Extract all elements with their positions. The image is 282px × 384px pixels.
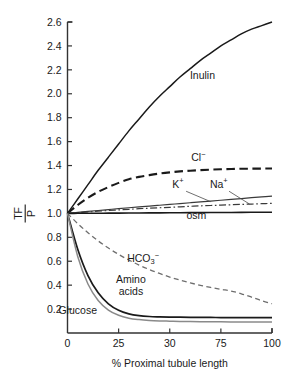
y-axis-title-numerator: TF bbox=[12, 207, 24, 220]
x-tick-label: 25 bbox=[113, 337, 125, 349]
curve-label-bicarbonate: HCO3− bbox=[127, 251, 160, 266]
y-tick-label: 0.6 bbox=[47, 255, 62, 267]
y-axis-title: TFP bbox=[12, 204, 38, 222]
tick-mark-group bbox=[68, 22, 273, 333]
curve-glucose bbox=[68, 213, 273, 322]
y-axis-tick-label-group: 0.20.40.60.81.01.21.41.61.82.02.22.42.6 bbox=[47, 16, 62, 315]
curve-bicarbonate bbox=[68, 213, 273, 303]
axis-lines bbox=[68, 22, 273, 333]
x-tick-label: 30 bbox=[164, 337, 176, 349]
curve-label-inulin: Inulin bbox=[190, 69, 215, 81]
x-tick-label: 100 bbox=[263, 337, 281, 349]
curve-label-amino-acids: Amino bbox=[116, 273, 146, 285]
figure-root: 0.20.40.60.81.01.21.41.61.82.02.22.42.6 … bbox=[0, 0, 282, 384]
curve-chloride bbox=[68, 169, 273, 214]
curve-label-amino-acids-line2: acids bbox=[119, 285, 144, 297]
y-tick-label: 0.8 bbox=[47, 231, 62, 243]
curve-label-potassium: K+ bbox=[172, 176, 184, 189]
y-tick-label: 0.4 bbox=[47, 279, 62, 291]
curve-label-chloride: Cl− bbox=[191, 150, 206, 163]
x-axis-title: % Proximal tubule length bbox=[112, 357, 228, 369]
y-tick-label: 1.8 bbox=[47, 111, 62, 123]
y-tick-label: 1.6 bbox=[47, 135, 62, 147]
y-tick-label: 1.0 bbox=[47, 207, 62, 219]
curve-osmolality bbox=[68, 212, 273, 213]
curve-label-osmolality: osm bbox=[186, 209, 206, 221]
curve-group bbox=[68, 22, 273, 322]
y-tick-label: 2.0 bbox=[47, 87, 62, 99]
leader-line-potassium bbox=[186, 191, 211, 201]
curve-amino-acids bbox=[68, 213, 273, 317]
y-tick-label: 2.6 bbox=[47, 16, 62, 28]
curve-label-sodium: Na+ bbox=[210, 176, 228, 189]
tf-p-proximal-tubule-chart: 0.20.40.60.81.01.21.41.61.82.02.22.42.6 … bbox=[0, 0, 282, 384]
x-axis-tick-label-group: 0253075100 bbox=[65, 337, 281, 349]
curve-label-group: InulinCl−K+Na+osmHCO3−AminoacidsGlucose bbox=[58, 69, 228, 316]
y-axis-title-denominator: P bbox=[25, 210, 37, 217]
y-tick-label: 2.4 bbox=[47, 40, 62, 52]
x-tick-label: 75 bbox=[215, 337, 227, 349]
y-tick-label: 1.4 bbox=[47, 159, 62, 171]
curve-inulin bbox=[68, 22, 273, 213]
curve-label-glucose: Glucose bbox=[58, 304, 97, 316]
y-tick-label: 1.2 bbox=[47, 183, 62, 195]
x-tick-label: 0 bbox=[65, 337, 71, 349]
y-tick-label: 2.2 bbox=[47, 64, 62, 76]
